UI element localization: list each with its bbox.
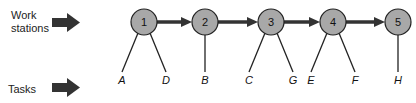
- svg-text:5: 5: [395, 16, 401, 28]
- work-station-node: 5: [385, 9, 411, 35]
- work-station-node: 2: [192, 9, 218, 35]
- task-label: C: [245, 74, 253, 86]
- flow-arrow-icon: [346, 17, 385, 27]
- flow-arrow-icon: [218, 17, 258, 27]
- work-station-node: 1: [131, 9, 157, 35]
- work-station-node: 3: [258, 9, 284, 35]
- task-link: [249, 33, 265, 72]
- task-label: H: [394, 74, 402, 86]
- task-label: F: [352, 74, 360, 86]
- task-label: D: [162, 74, 170, 86]
- work-stations-pointer-icon: [52, 13, 80, 32]
- svg-text:4: 4: [330, 16, 336, 28]
- task-link: [150, 33, 166, 72]
- task-link: [277, 33, 293, 72]
- task-link: [122, 33, 138, 72]
- svg-text:1: 1: [141, 16, 147, 28]
- work-station-node: 4: [320, 9, 346, 35]
- svg-text:3: 3: [268, 16, 274, 28]
- task-label: E: [307, 74, 315, 86]
- flow-arrow-icon: [284, 17, 320, 27]
- flow-arrow-icon: [157, 17, 192, 27]
- task-label: B: [201, 74, 208, 86]
- task-link: [339, 33, 355, 72]
- task-link: [311, 33, 327, 72]
- tasks-pointer-icon: [52, 78, 80, 97]
- svg-text:2: 2: [202, 16, 208, 28]
- task-label: A: [117, 74, 125, 86]
- precedence-diagram: ADBCGEFH12345: [0, 0, 416, 103]
- task-label: G: [289, 74, 298, 86]
